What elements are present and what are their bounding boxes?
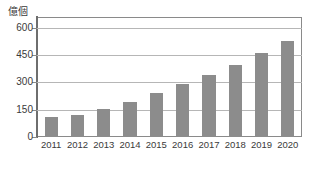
y-axis-tick-label: 300 (3, 77, 33, 87)
bar-slot (97, 17, 110, 137)
bar-slot (255, 17, 268, 137)
bar-slot (202, 17, 215, 137)
x-axis-tick-label: 2016 (170, 139, 196, 151)
bar-chart: 億個 0150300450600 20112012201320142015201… (0, 0, 312, 170)
bar (123, 102, 136, 137)
x-axis-tick-label: 2011 (38, 139, 64, 151)
x-axis-tick-label: 2018 (222, 139, 248, 151)
bar-slot (229, 17, 242, 137)
x-axis-tick-label: 2012 (64, 139, 90, 151)
y-axis-tick-label: 450 (3, 50, 33, 60)
bar (150, 93, 163, 137)
bar-slot (71, 17, 84, 137)
bar (255, 53, 268, 137)
bar-slot (45, 17, 58, 137)
y-axis-tick-label: 150 (3, 105, 33, 115)
bar (71, 115, 84, 137)
bar (202, 75, 215, 137)
x-axis-tick-labels: 2011201220132014201520162017201820192020 (38, 139, 301, 155)
bars-container (38, 17, 301, 137)
x-axis-tick-label: 2015 (143, 139, 169, 151)
bar-slot (150, 17, 163, 137)
bar (176, 84, 189, 137)
y-axis-tick-label: 600 (3, 23, 33, 33)
bar (229, 65, 242, 137)
y-axis-tick-label: 0 (3, 132, 33, 142)
x-axis-tick-label: 2019 (248, 139, 274, 151)
bar (281, 41, 294, 137)
y-axis-tick-labels: 0150300450600 (0, 0, 33, 170)
bar (45, 117, 58, 137)
bar-slot (176, 17, 189, 137)
x-axis-tick-label: 2013 (91, 139, 117, 151)
x-axis-tick-label: 2014 (117, 139, 143, 151)
bar (97, 109, 110, 137)
bar-slot (123, 17, 136, 137)
x-axis-tick-label: 2017 (196, 139, 222, 151)
x-axis-tick-label: 2020 (275, 139, 301, 151)
bar-slot (281, 17, 294, 137)
